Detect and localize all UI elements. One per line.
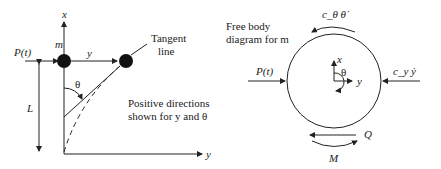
tangent-label: Tangent <box>151 32 186 44</box>
free-body-diagram: Free body diagram for m c_θ θ̇ P(t) c_y … <box>226 8 420 164</box>
moment-arrow <box>312 141 357 147</box>
fbd-x-label: x <box>336 53 342 65</box>
angle-label: θ <box>75 78 80 90</box>
rot-damping-arrow <box>312 27 355 32</box>
shear-label: Q <box>364 128 372 140</box>
displacement-label: y <box>86 47 92 59</box>
force-label: P(t) <box>13 46 31 59</box>
note-line-1: Positive directions <box>128 97 210 109</box>
mass-displaced <box>119 54 133 68</box>
diagram-canvas: x y P(t) m y L θ Tangent line Positive d… <box>0 0 441 169</box>
figure: x y P(t) m y L θ Tangent line Positive d… <box>0 0 441 169</box>
tangent-label-2: line <box>158 45 175 57</box>
cantilever-diagram: x y P(t) m y L θ Tangent line Positive d… <box>13 8 211 160</box>
tangent-leader <box>131 44 147 55</box>
moment-label: M <box>328 152 339 164</box>
damping-label: c_y ẏ <box>393 65 416 77</box>
fbd-title-1: Free body <box>226 20 271 32</box>
fbd-y-label: y <box>356 75 362 87</box>
y-axis-label: y <box>205 148 211 160</box>
mass-label: m <box>55 38 63 50</box>
fbd-angle-label: θ <box>341 66 346 78</box>
length-label: L <box>26 102 33 114</box>
x-axis-label: x <box>61 8 67 20</box>
fbd-force-label: P(t) <box>255 65 273 78</box>
rot-damping-label: c_θ θ̇ <box>322 8 350 20</box>
note-line-2: shown for y and θ <box>128 110 207 122</box>
fbd-title-2: diagram for m <box>226 33 289 45</box>
mass-original <box>57 54 71 68</box>
